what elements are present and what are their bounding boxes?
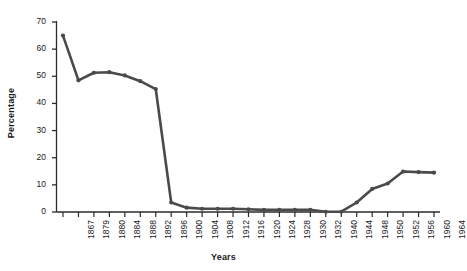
x-tick-label: 1880 <box>117 220 127 239</box>
y-tick-label: 40 <box>24 97 46 107</box>
data-point-marker <box>107 70 111 74</box>
data-point-marker <box>185 206 189 210</box>
y-tick-label: 50 <box>24 70 46 80</box>
x-tick-label: 1904 <box>210 220 220 239</box>
x-tick-label: 1912 <box>241 220 251 239</box>
data-point-marker <box>339 210 343 214</box>
data-series-line <box>63 36 434 212</box>
x-tick-label: 1916 <box>256 220 266 239</box>
x-tick-label: 1932 <box>333 220 343 239</box>
x-tick-label: 1867 <box>86 220 96 239</box>
y-tick-label: 0 <box>24 206 46 216</box>
data-point-marker <box>432 171 436 175</box>
data-point-marker <box>154 87 158 91</box>
x-tick-label: 1964 <box>457 220 467 239</box>
x-axis-ticks <box>63 212 434 217</box>
y-tick-label: 30 <box>24 125 46 135</box>
data-point-marker <box>308 208 312 212</box>
x-tick-label: 1924 <box>287 220 297 239</box>
data-point-marker <box>262 208 266 212</box>
data-point-marker <box>401 169 405 173</box>
data-point-marker <box>293 208 297 212</box>
data-point-marker <box>386 181 390 185</box>
x-tick-label: 1896 <box>179 220 189 239</box>
data-point-marker <box>231 207 235 211</box>
x-tick-label: 1920 <box>271 220 281 239</box>
data-point-marker <box>246 207 250 211</box>
x-tick-label: 1948 <box>380 220 390 239</box>
data-point-marker <box>215 207 219 211</box>
data-point-marker <box>61 33 65 37</box>
x-tick-label: 1940 <box>349 220 359 239</box>
data-point-marker <box>76 78 80 82</box>
data-point-marker <box>324 210 328 214</box>
x-tick-label: 1956 <box>426 220 436 239</box>
y-tick-label: 70 <box>24 16 46 26</box>
data-point-marker <box>277 208 281 212</box>
data-point-marker <box>355 200 359 204</box>
axes <box>57 21 441 212</box>
y-tick-label: 10 <box>24 179 46 189</box>
data-point-marker <box>92 71 96 75</box>
x-tick-label: 1952 <box>411 220 421 239</box>
data-point-marker <box>123 73 127 77</box>
x-tick-label: 1930 <box>318 220 328 239</box>
x-tick-label: 1950 <box>395 220 405 239</box>
data-point-marker <box>200 207 204 211</box>
data-point-marker <box>169 200 173 204</box>
x-tick-label: 1908 <box>225 220 235 239</box>
x-tick-label: 1888 <box>148 220 158 239</box>
x-tick-label: 1884 <box>132 220 142 239</box>
x-tick-label: 1892 <box>163 220 173 239</box>
y-tick-label: 20 <box>24 152 46 162</box>
data-point-marker <box>416 170 420 174</box>
y-tick-label: 60 <box>24 43 46 53</box>
x-tick-label: 1928 <box>302 220 312 239</box>
y-axis-ticks <box>52 22 57 212</box>
x-tick-label: 1879 <box>101 220 111 239</box>
x-tick-label: 1900 <box>194 220 204 239</box>
x-tick-label: 1960 <box>441 220 451 239</box>
data-point-marker <box>370 187 374 191</box>
x-tick-label: 1944 <box>364 220 374 239</box>
data-point-marker <box>138 79 142 83</box>
